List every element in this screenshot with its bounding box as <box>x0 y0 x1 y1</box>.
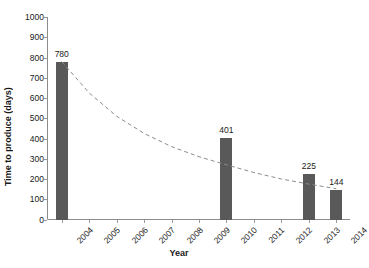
x-tick-mark <box>199 220 200 223</box>
x-tick-label: 2013 <box>321 225 341 245</box>
x-tick-mark <box>281 220 282 223</box>
x-tick-label: 2014 <box>349 225 369 245</box>
x-tick-mark <box>336 220 337 223</box>
x-tick-label: 2010 <box>239 225 259 245</box>
x-tick-mark <box>62 220 63 223</box>
x-tick-label: 2007 <box>157 225 177 245</box>
x-tick-label: 2012 <box>294 225 314 245</box>
x-tick-label: 2004 <box>74 225 94 245</box>
x-axis-title: Year <box>0 248 358 258</box>
x-tick-label: 2009 <box>212 225 232 245</box>
x-tick-mark <box>226 220 227 223</box>
x-tick-mark <box>89 220 90 223</box>
x-tick-label: 2011 <box>266 225 286 245</box>
x-tick-label: 2008 <box>184 225 204 245</box>
x-tick-mark <box>172 220 173 223</box>
x-tick-label: 2006 <box>129 225 149 245</box>
x-tick-mark <box>254 220 255 223</box>
x-tick-mark <box>117 220 118 223</box>
x-tick-mark <box>309 220 310 223</box>
x-tick-mark <box>144 220 145 223</box>
x-tick-label: 2005 <box>102 225 122 245</box>
